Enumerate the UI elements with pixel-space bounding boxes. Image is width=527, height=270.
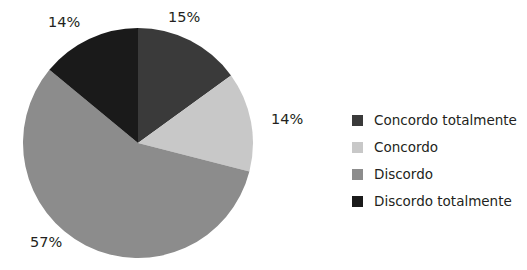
pie-slice-group (23, 28, 253, 258)
pie-slice-value-label-concordo-totalmente: 15% (168, 10, 200, 25)
legend-item-label: Concordo (374, 141, 438, 155)
pie-slice-value-label-discordo-totalmente: 14% (48, 15, 80, 30)
chart-legend: Concordo totalmente Concordo Discordo Di… (352, 108, 524, 216)
legend-item-label: Discordo totalmente (374, 195, 512, 209)
pie-plot-area: 15% 14% 57% 14% (0, 0, 330, 270)
legend-item-discordo-totalmente: Discordo totalmente (352, 189, 524, 214)
legend-swatch-icon (352, 115, 363, 126)
pie-chart: 15% 14% 57% 14% Concordo totalmente Conc… (0, 0, 527, 270)
legend-item-concordo: Concordo (352, 135, 524, 160)
legend-swatch-icon (352, 196, 363, 207)
pie-svg (0, 0, 330, 270)
pie-slice-value-label-discordo: 57% (30, 235, 62, 250)
legend-item-concordo-totalmente: Concordo totalmente (352, 108, 524, 133)
legend-item-label: Concordo totalmente (374, 114, 517, 128)
legend-item-discordo: Discordo (352, 162, 524, 187)
legend-swatch-icon (352, 142, 363, 153)
pie-slice-value-label-concordo: 14% (271, 112, 303, 127)
legend-item-label: Discordo (374, 168, 433, 182)
legend-swatch-icon (352, 169, 363, 180)
